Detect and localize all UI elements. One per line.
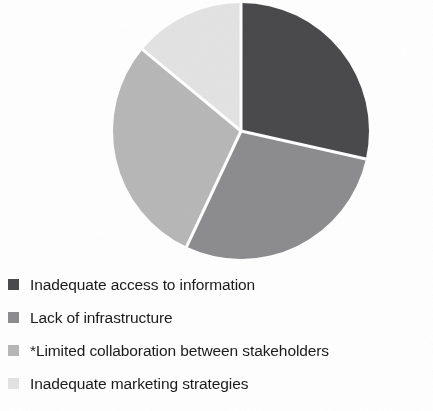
legend-item-lack-of-infrastructure: Lack of infrastructure [0,301,433,334]
legend-swatch-icon [8,312,19,323]
legend-item-label: Inadequate access to information [30,275,255,294]
pie-chart-svg [0,0,433,265]
legend-swatch-icon [8,279,19,290]
legend-item-label: Lack of infrastructure [30,308,173,327]
pie-chart-plot-area [0,0,433,265]
legend-swatch-icon [8,345,19,356]
legend-item-label: Inadequate marketing strategies [30,374,248,393]
chart-legend: Inadequate access to information Lack of… [0,268,433,400]
legend-item-inadequate-marketing-strategies: Inadequate marketing strategies [0,367,433,400]
legend-item-label: *Limited collaboration between stakehold… [30,341,329,360]
pie-chart-figure: Inadequate access to information Lack of… [0,0,433,411]
legend-item-limited-collaboration-between-stakeholders: *Limited collaboration between stakehold… [0,334,433,367]
legend-item-inadequate-access-to-information: Inadequate access to information [0,268,433,301]
legend-swatch-icon [8,378,19,389]
